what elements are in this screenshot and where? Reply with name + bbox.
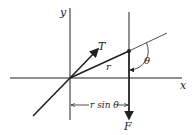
lower-line xyxy=(33,78,70,116)
tension-arrow xyxy=(70,49,98,78)
y-axis-label: y xyxy=(59,6,67,19)
torque-diagram: y x T r θ F r sin θ xyxy=(0,0,194,135)
diagram: y x T r θ F r sin θ xyxy=(0,0,194,135)
angle-label: θ xyxy=(144,55,150,66)
radius-vector xyxy=(70,51,129,78)
force-label: F xyxy=(123,120,132,133)
tension-label: T xyxy=(98,40,107,53)
radius-label: r xyxy=(106,61,112,72)
x-axis-label: x xyxy=(180,79,187,92)
moment-arm-label: r sin θ xyxy=(90,100,119,110)
